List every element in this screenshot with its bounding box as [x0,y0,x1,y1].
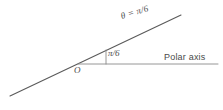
polar-axis-label: Polar axis [164,53,206,62]
angle-label: π/6 [108,49,120,58]
polar-diagram-figure: θ = π/6 π/6 O Polar axis [0,0,223,110]
theta-line [10,15,181,96]
origin-label: O [74,66,81,75]
